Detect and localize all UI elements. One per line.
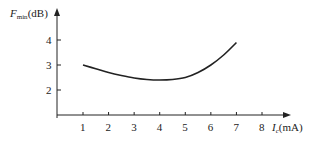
x-tick-label: 1 <box>80 121 86 133</box>
x-tick-label: 3 <box>131 121 137 133</box>
y-axis-label: Fmin(dB) <box>9 7 48 21</box>
y-tick-label: 2 <box>46 84 52 96</box>
x-tick-label: 2 <box>106 121 112 133</box>
x-tick-label: 6 <box>208 121 214 133</box>
x-axis-arrow-icon <box>283 112 291 118</box>
x-tick-label: 7 <box>233 121 239 133</box>
data-curve <box>83 43 236 81</box>
noise-figure-chart: 234 12345678 Fmin(dB) Ic(mA) <box>0 0 321 143</box>
y-tick-label: 3 <box>46 59 52 71</box>
y-axis-arrow-icon <box>54 8 60 16</box>
x-tick-label: 5 <box>182 121 188 133</box>
x-tick-label: 4 <box>157 121 163 133</box>
y-ticks: 234 <box>46 34 61 96</box>
y-tick-label: 4 <box>46 34 52 46</box>
x-axis-label: Ic(mA) <box>271 121 303 135</box>
x-tick-label: 8 <box>259 121 265 133</box>
